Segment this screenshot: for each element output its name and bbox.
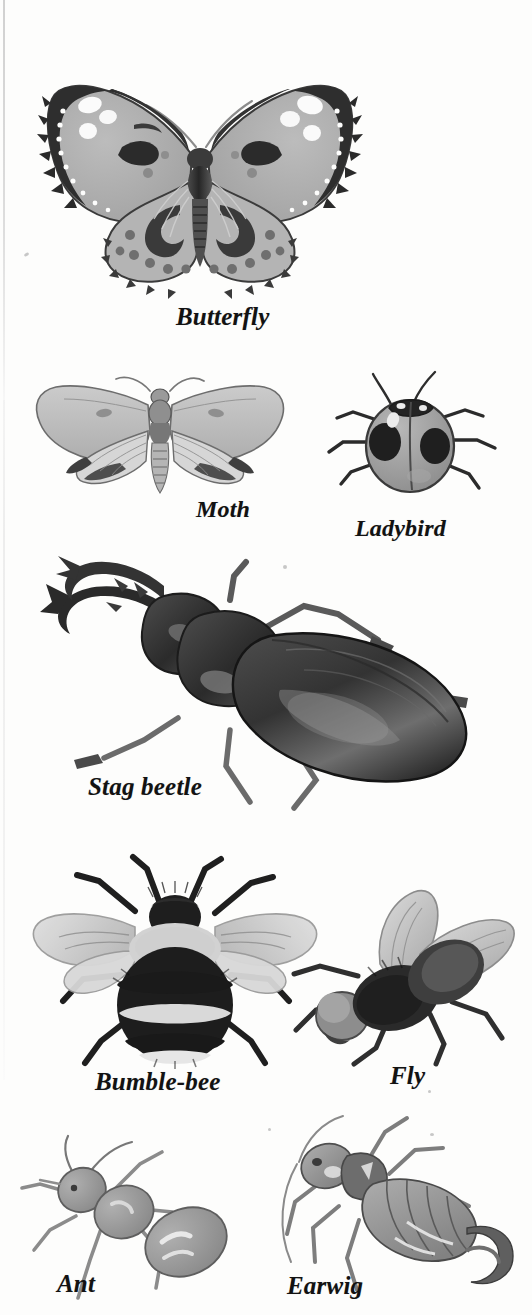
figure-label-moth: Moth [196, 496, 250, 523]
figure-label-butterfly: Butterfly [176, 303, 269, 331]
scan-speck [268, 1128, 271, 1131]
butterfly-illustration [30, 55, 370, 305]
stag-beetle-illustration [18, 540, 518, 810]
figure-label-bumble-bee: Bumble-bee [95, 1068, 221, 1096]
figure-label-stag-beetle: Stag beetle [88, 773, 202, 801]
scan-speck [283, 565, 287, 569]
fly-illustration [280, 880, 530, 1065]
scan-speck [428, 1090, 431, 1093]
scan-speck [430, 1133, 434, 1136]
figure-label-fly: Fly [390, 1062, 425, 1090]
scan-gutter-line-lower [3, 400, 5, 1080]
scan-gutter-line [3, 0, 5, 420]
scan-speck [24, 252, 30, 257]
book-page: Butterfly [0, 0, 532, 1315]
figure-label-ant: Ant [57, 1270, 95, 1298]
figure-label-earwig: Earwig [287, 1272, 363, 1300]
figure-label-ladybird: Ladybird [355, 515, 446, 542]
ladybird-illustration [315, 368, 515, 518]
moth-illustration [20, 365, 300, 515]
